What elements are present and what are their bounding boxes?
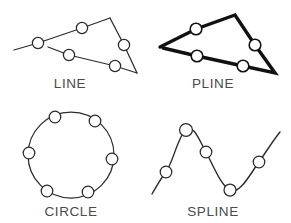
line-grip-markers [32,22,129,71]
grip-marker [237,60,249,72]
circle-geometry [28,112,114,198]
grip-marker [82,186,94,198]
caption-line: LINE [54,76,86,91]
figure-canvas: LINE PLINE [0,0,291,223]
caption-circle: CIRCLE [44,204,97,219]
grip-marker [89,115,101,127]
grip-marker [106,153,118,165]
grip-marker [23,147,35,159]
caption-pline: PLINE [192,76,234,91]
figure-line: LINE [14,18,137,91]
line-segment-upper [14,18,110,50]
grip-marker [224,184,236,196]
figure-spline: SPLINE [152,124,280,219]
grip-marker [63,49,74,60]
grip-marker [191,50,203,62]
spline-grip-markers [160,124,265,196]
circle-grip-markers [23,111,118,198]
grip-marker [253,156,265,168]
grip-marker [160,166,172,178]
grip-marker [249,39,261,51]
grip-marker [190,23,202,35]
pline-grip-markers [190,23,261,72]
grip-marker [118,39,129,50]
caption-spline: SPLINE [187,204,239,219]
grip-marker [200,146,212,158]
grip-marker [109,60,120,71]
grip-marker [76,22,87,33]
grip-marker [49,111,61,123]
entity-types-figure: LINE PLINE [0,0,291,223]
grip-marker [41,185,53,197]
figure-circle: CIRCLE [23,111,118,219]
grip-marker [32,37,43,48]
figure-pline: PLINE [160,15,275,91]
grip-marker [180,124,193,137]
